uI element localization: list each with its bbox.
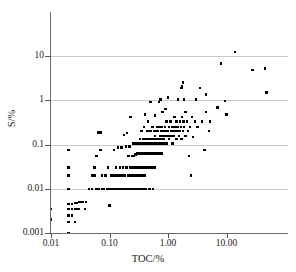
data-point bbox=[184, 111, 186, 113]
data-point bbox=[108, 204, 110, 206]
data-point bbox=[171, 142, 173, 144]
data-point bbox=[251, 69, 253, 71]
data-point bbox=[189, 126, 191, 128]
data-point bbox=[137, 174, 139, 176]
gridline-y bbox=[51, 145, 288, 146]
data-point bbox=[182, 81, 184, 83]
data-point bbox=[181, 85, 183, 87]
data-point bbox=[192, 136, 194, 138]
gridline-y bbox=[51, 56, 288, 57]
data-point bbox=[186, 120, 188, 122]
data-point bbox=[122, 166, 124, 168]
data-point bbox=[67, 188, 69, 190]
data-point bbox=[199, 87, 201, 89]
data-point bbox=[128, 145, 130, 147]
data-point bbox=[67, 214, 69, 216]
scatter-chart-figure: 0.0010.010.1110 0.010.101.0010.00 TOC/% … bbox=[0, 0, 296, 272]
data-point bbox=[168, 126, 170, 128]
data-point bbox=[125, 166, 127, 168]
data-point bbox=[169, 135, 171, 137]
data-point bbox=[181, 116, 183, 118]
data-point bbox=[154, 114, 156, 116]
x-tick-label: 1.00 bbox=[160, 239, 177, 249]
data-point bbox=[101, 174, 103, 176]
y-tick-label: 0.1 bbox=[0, 140, 44, 150]
data-point bbox=[84, 208, 86, 210]
x-axis-line bbox=[50, 233, 288, 234]
data-point bbox=[167, 130, 169, 132]
data-point bbox=[165, 142, 167, 144]
data-point bbox=[107, 166, 109, 168]
data-point bbox=[93, 174, 95, 176]
data-point bbox=[190, 174, 192, 176]
data-point bbox=[234, 51, 236, 53]
data-point bbox=[158, 101, 160, 103]
data-point bbox=[225, 113, 227, 115]
y-tick-mark bbox=[45, 145, 51, 146]
gridline-y bbox=[51, 100, 288, 101]
data-point bbox=[182, 130, 184, 132]
data-point bbox=[140, 130, 142, 132]
data-point bbox=[196, 126, 198, 128]
data-point bbox=[91, 188, 93, 190]
x-axis-title: TOC/% bbox=[0, 253, 296, 264]
data-point bbox=[183, 98, 185, 100]
data-point bbox=[67, 221, 69, 223]
data-point bbox=[175, 138, 177, 140]
data-point bbox=[95, 155, 97, 157]
data-point bbox=[74, 221, 76, 223]
y-axis-title: S/% bbox=[6, 99, 17, 139]
data-point bbox=[71, 208, 73, 210]
data-point bbox=[187, 130, 189, 132]
data-point bbox=[164, 126, 166, 128]
data-point bbox=[149, 101, 151, 103]
data-point bbox=[123, 134, 125, 136]
data-point bbox=[188, 155, 190, 157]
y-tick-label: 0.001 bbox=[0, 228, 44, 238]
y-tick-label: 0.01 bbox=[0, 184, 44, 194]
data-point bbox=[82, 201, 84, 203]
data-point bbox=[104, 174, 106, 176]
data-point bbox=[85, 201, 87, 203]
plot-area bbox=[51, 12, 288, 233]
data-point bbox=[160, 152, 162, 154]
gridline-y bbox=[51, 189, 288, 190]
data-point bbox=[159, 98, 161, 100]
data-point bbox=[175, 120, 177, 122]
data-point bbox=[170, 130, 172, 132]
data-point bbox=[216, 106, 218, 108]
data-point bbox=[205, 111, 207, 113]
data-point bbox=[203, 149, 205, 151]
y-tick-label: 10 bbox=[0, 51, 44, 61]
data-point bbox=[67, 174, 69, 176]
data-point bbox=[164, 108, 166, 110]
data-point bbox=[117, 146, 119, 148]
data-point bbox=[126, 132, 128, 134]
data-point bbox=[145, 188, 147, 190]
data-point bbox=[179, 120, 181, 122]
data-point bbox=[93, 166, 95, 168]
x-tick-label: 10.00 bbox=[216, 239, 237, 249]
x-tick-label: 0.10 bbox=[101, 239, 118, 249]
data-point bbox=[120, 146, 122, 148]
data-point bbox=[78, 208, 80, 210]
data-point bbox=[115, 166, 117, 168]
y-tick-mark bbox=[45, 100, 51, 101]
y-tick-mark bbox=[45, 189, 51, 190]
data-point bbox=[167, 96, 169, 98]
data-point bbox=[143, 126, 145, 128]
data-point bbox=[169, 120, 171, 122]
data-point bbox=[67, 149, 69, 151]
data-point bbox=[147, 120, 149, 122]
y-tick-mark bbox=[45, 56, 51, 57]
data-point bbox=[194, 120, 196, 122]
data-point bbox=[125, 145, 127, 147]
data-point bbox=[99, 149, 101, 151]
data-point bbox=[71, 214, 73, 216]
data-point bbox=[67, 208, 69, 210]
x-tick-label: 0.01 bbox=[43, 239, 60, 249]
data-point bbox=[151, 126, 153, 128]
data-point bbox=[265, 91, 267, 93]
data-point bbox=[165, 120, 167, 122]
data-point bbox=[182, 120, 184, 122]
